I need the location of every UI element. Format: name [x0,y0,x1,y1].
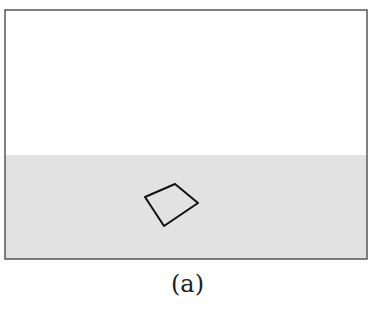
sky-region [5,10,367,155]
figure-panel [0,0,375,310]
figure-caption: (a) [0,270,375,298]
ground-region [5,155,367,259]
